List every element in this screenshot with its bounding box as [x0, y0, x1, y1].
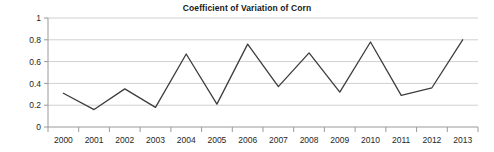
data-series-line [63, 40, 462, 110]
x-axis-tick-label: 2009 [330, 135, 349, 145]
x-axis-tick-label: 2007 [269, 135, 288, 145]
x-axis-tick-label: 2005 [207, 135, 226, 145]
x-axis-tick-label: 2004 [177, 135, 196, 145]
y-axis-tick-label: 0.2 [29, 100, 41, 110]
x-axis-tick-label: 2010 [361, 135, 380, 145]
y-axis-tick-label: 0.4 [29, 79, 41, 89]
x-tick-marks-group [48, 127, 478, 132]
y-axis-tick-label: 0 [36, 122, 41, 132]
x-axis-tick-label: 2011 [392, 135, 411, 145]
y-axis-tick-label: 1 [36, 13, 41, 23]
y-tick-marks-group [44, 18, 48, 127]
x-axis-tick-label: 2002 [115, 135, 134, 145]
plot-area: 1 0.8 0.6 0.4 0.2 0 2000 2001 2002 2003 … [0, 0, 494, 152]
x-axis-tick-label: 2008 [300, 135, 319, 145]
x-axis-tick-label: 2013 [453, 135, 472, 145]
x-axis-tick-label: 2000 [54, 135, 73, 145]
x-axis-tick-label: 2006 [238, 135, 257, 145]
y-axis-tick-label: 0.6 [29, 57, 41, 67]
x-axis-tick-label: 2001 [85, 135, 104, 145]
y-axis-labels-group: 1 0.8 0.6 0.4 0.2 0 [29, 13, 41, 132]
axis-lines-group [48, 18, 478, 127]
x-axis-tick-label: 2012 [422, 135, 441, 145]
line-chart-svg: 1 0.8 0.6 0.4 0.2 0 2000 2001 2002 2003 … [0, 0, 494, 152]
x-axis-labels-group: 2000 2001 2002 2003 2004 2005 2006 2007 … [54, 135, 472, 145]
x-axis-tick-label: 2003 [146, 135, 165, 145]
y-axis-tick-label: 0.8 [29, 35, 41, 45]
chart-container: Coefficient of Variation of Corn [0, 0, 494, 152]
